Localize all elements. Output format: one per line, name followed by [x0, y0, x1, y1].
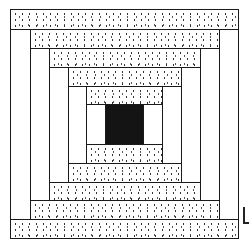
right-column-3 — [181, 67, 201, 183]
top-stripe-3 — [49, 48, 201, 68]
log-cabin-block — [0, 0, 249, 246]
bottom-stripe-3 — [49, 182, 201, 201]
bottom-stripe-5 — [86, 144, 163, 164]
bottom-stripe-1 — [10, 219, 239, 239]
center-square — [105, 104, 144, 145]
bottom-stripe-4 — [68, 163, 182, 183]
bottom-stripe-2 — [30, 200, 220, 220]
left-column-3 — [49, 67, 69, 183]
top-stripe-5 — [86, 86, 163, 105]
right-column-5 — [143, 104, 163, 145]
left-column-4 — [68, 86, 87, 164]
left-column-1 — [10, 29, 31, 220]
top-stripe-2 — [30, 29, 220, 49]
top-stripe-4 — [68, 67, 182, 87]
right-column-1 — [219, 29, 239, 220]
edge-mark-glyph — [243, 207, 245, 224]
top-stripe-1 — [10, 9, 239, 30]
left-column-5 — [86, 104, 106, 145]
left-column-2 — [30, 48, 50, 201]
right-column-2 — [200, 48, 220, 201]
right-column-4 — [162, 86, 182, 164]
